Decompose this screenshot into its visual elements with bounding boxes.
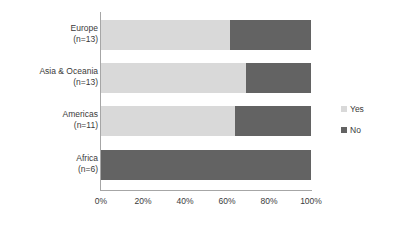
category-count: (n=13) bbox=[39, 77, 98, 88]
bar-africa bbox=[101, 150, 311, 180]
bar-europe bbox=[101, 20, 311, 50]
legend-label-no: No bbox=[350, 125, 361, 135]
legend-swatch-icon-no bbox=[341, 127, 347, 133]
x-tick-label-100: 100% bbox=[300, 196, 322, 206]
bar-segment-no bbox=[246, 63, 311, 93]
legend-item-no[interactable]: No bbox=[341, 125, 364, 135]
category-label-africa: Africa (n=6) bbox=[76, 153, 98, 175]
category-count: (n=6) bbox=[76, 164, 98, 175]
category-name: Africa bbox=[76, 153, 98, 164]
x-axis-line bbox=[100, 190, 312, 191]
category-label-americas: Americas (n=11) bbox=[63, 109, 98, 131]
bar-segment-yes bbox=[101, 106, 235, 136]
x-tick-label-20: 20% bbox=[134, 196, 151, 206]
category-label-europe: Europe (n=13) bbox=[71, 23, 98, 45]
category-name: Asia & Oceania bbox=[39, 66, 98, 77]
category-count: (n=13) bbox=[71, 34, 98, 45]
legend: Yes No bbox=[341, 104, 364, 146]
legend-swatch-icon-yes bbox=[341, 106, 347, 112]
category-label-asia-oceania: Asia & Oceania (n=13) bbox=[39, 66, 98, 88]
plot-area bbox=[101, 12, 311, 190]
bar-segment-yes bbox=[101, 63, 246, 93]
bar-segment-no bbox=[101, 150, 311, 180]
category-name: Americas bbox=[63, 109, 98, 120]
x-tick-label-60: 60% bbox=[218, 196, 235, 206]
x-tick-label-0: 0% bbox=[95, 196, 107, 206]
legend-item-yes[interactable]: Yes bbox=[341, 104, 364, 114]
category-count: (n=11) bbox=[63, 120, 98, 131]
bar-segment-no bbox=[230, 20, 311, 50]
x-tick-label-40: 40% bbox=[176, 196, 193, 206]
legend-label-yes: Yes bbox=[350, 104, 364, 114]
bar-americas bbox=[101, 106, 311, 136]
stacked-bar-chart: Europe (n=13) Asia & Oceania (n=13) Amer… bbox=[0, 0, 394, 226]
bar-asia-oceania bbox=[101, 63, 311, 93]
category-name: Europe bbox=[71, 23, 98, 34]
x-tick-label-80: 80% bbox=[260, 196, 277, 206]
bar-segment-yes bbox=[101, 20, 230, 50]
bar-segment-no bbox=[235, 106, 311, 136]
